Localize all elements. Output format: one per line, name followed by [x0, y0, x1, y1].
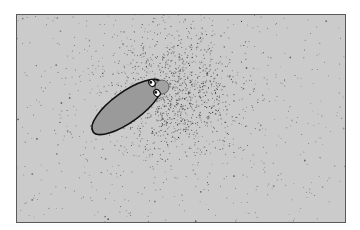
particle [216, 88, 217, 89]
particle [201, 152, 202, 153]
particle [162, 118, 163, 119]
particle [197, 87, 198, 88]
particle [180, 107, 181, 108]
particle [192, 121, 193, 122]
particle [166, 179, 167, 180]
particle [177, 178, 178, 179]
particle [226, 109, 228, 111]
particle [187, 100, 188, 101]
particle [213, 81, 214, 82]
particle [317, 69, 318, 70]
particle [196, 101, 197, 102]
particle [163, 20, 164, 21]
particle [92, 200, 93, 201]
particle [202, 70, 203, 71]
particle [302, 222, 303, 223]
particle [238, 148, 239, 149]
particle [143, 160, 144, 161]
particle [175, 93, 176, 94]
particle [186, 133, 187, 134]
particle [320, 101, 321, 102]
particle [346, 140, 347, 141]
particle [135, 79, 136, 80]
particle [179, 21, 180, 22]
particle [101, 157, 102, 158]
particle [321, 116, 322, 117]
particle [168, 68, 169, 69]
particle [120, 145, 121, 146]
particle [206, 141, 207, 142]
particle [263, 169, 264, 170]
particle [177, 87, 178, 88]
particle [177, 45, 178, 46]
particle [126, 149, 127, 150]
particle [249, 94, 250, 95]
particle [109, 135, 110, 136]
particle [191, 107, 192, 108]
particle [55, 133, 56, 134]
particle [246, 81, 247, 82]
particle [281, 179, 282, 180]
particle [245, 111, 246, 112]
particle [243, 118, 244, 119]
particle [80, 81, 81, 82]
particle [160, 32, 161, 33]
particle [207, 182, 208, 183]
particle [178, 15, 179, 16]
particle [116, 173, 117, 174]
particle [165, 73, 166, 74]
particle [186, 97, 187, 98]
particle [68, 115, 69, 116]
particle [195, 55, 196, 56]
particle [202, 67, 203, 68]
particle [213, 78, 214, 79]
particle [119, 150, 120, 151]
particle [170, 26, 171, 27]
particle [147, 59, 148, 60]
particle [137, 73, 138, 74]
particle [183, 89, 184, 90]
particle [197, 122, 198, 123]
particle [267, 185, 268, 186]
particle [112, 36, 113, 37]
particle [200, 112, 201, 113]
particle [224, 178, 225, 179]
particle [232, 116, 233, 117]
particle [171, 122, 172, 123]
particle [202, 33, 203, 34]
particle [94, 148, 95, 149]
particle [184, 119, 185, 120]
particle [223, 163, 224, 164]
particle [216, 99, 217, 100]
particle [268, 184, 269, 185]
particle [145, 28, 146, 29]
particle [134, 133, 135, 134]
particle [195, 123, 196, 124]
particle [254, 46, 255, 47]
particle [239, 114, 240, 115]
particle [183, 123, 184, 124]
particle [179, 159, 180, 160]
particle [245, 53, 246, 54]
particle [150, 71, 151, 72]
particle [167, 80, 168, 81]
particle [142, 193, 143, 194]
particle [189, 148, 190, 149]
particle [184, 52, 185, 53]
particle [200, 87, 201, 88]
particle [227, 19, 228, 20]
particle [214, 78, 215, 79]
particle [241, 21, 242, 22]
particle [73, 57, 74, 58]
particle [201, 122, 202, 123]
particle [153, 63, 154, 64]
particle [174, 71, 175, 72]
particle [87, 51, 88, 52]
particle [204, 17, 205, 18]
particle [202, 136, 203, 137]
particle [163, 54, 164, 55]
particle [211, 50, 212, 51]
particle [163, 96, 164, 97]
particle [131, 45, 132, 46]
particle [166, 124, 167, 125]
